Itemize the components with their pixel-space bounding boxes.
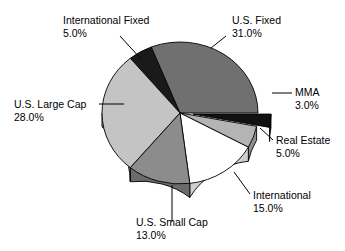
slice-label-value: 15.0%	[253, 202, 283, 214]
pie-chart-figure: U.S. Fixed31.0%MMA3.0%Real Estate5.0%Int…	[0, 0, 345, 251]
slice-label-name: Real Estate	[276, 134, 330, 146]
slice-label-value: 28.0%	[14, 111, 44, 123]
slice-label-value: 3.0%	[295, 99, 319, 111]
slice-label-name: MMA	[295, 86, 320, 98]
slice-label-value: 13.0%	[136, 229, 166, 241]
slice-label-name: U.S. Large Cap	[14, 98, 87, 110]
slice-label-name: U.S. Small Cap	[136, 216, 208, 228]
slice-label-name: International Fixed	[63, 14, 150, 26]
slice-label-name: U.S. Fixed	[232, 14, 281, 26]
pie-chart-canvas: U.S. Fixed31.0%MMA3.0%Real Estate5.0%Int…	[0, 0, 345, 251]
slice-label-name: International	[253, 189, 311, 201]
slice-label-value: 5.0%	[63, 27, 87, 39]
slice-label-value: 31.0%	[232, 27, 262, 39]
slice-label-value: 5.0%	[276, 147, 300, 159]
